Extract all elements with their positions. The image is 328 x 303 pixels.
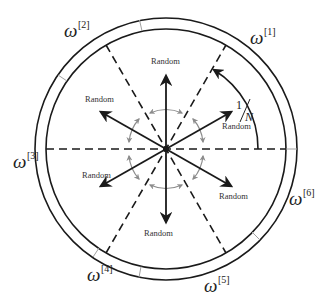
ring-divider bbox=[139, 267, 141, 278]
svg-text:[5]: [5] bbox=[218, 274, 230, 285]
circular-partition-diagram: 1 N Random Random Random Random Random R… bbox=[0, 0, 328, 303]
random-label-upper-left: Random bbox=[85, 94, 114, 104]
random-label-upper-right: Random bbox=[222, 121, 251, 131]
direction-arrow-lower-left bbox=[101, 149, 166, 186]
svg-text:ω: ω bbox=[87, 264, 100, 285]
segment-label-1: ω [1] bbox=[250, 26, 276, 48]
segment-label-2: ω [2] bbox=[64, 19, 90, 41]
ring-divider bbox=[140, 20, 143, 31]
svg-text:ω: ω bbox=[250, 27, 263, 48]
svg-text:[6]: [6] bbox=[303, 187, 315, 198]
direction-arrow-upper-left bbox=[101, 112, 166, 149]
ring-divider bbox=[93, 248, 99, 257]
segment-label-4: ω [4] bbox=[87, 263, 113, 285]
svg-text:ω: ω bbox=[13, 151, 26, 172]
svg-text:[3]: [3] bbox=[27, 150, 39, 161]
random-label-down: Random bbox=[144, 228, 173, 238]
segment-label-5: ω [5] bbox=[204, 274, 230, 296]
svg-text:[4]: [4] bbox=[101, 263, 113, 274]
random-label-lower-left: Random bbox=[82, 170, 111, 180]
svg-text:ω: ω bbox=[204, 275, 217, 296]
random-label-lower-right: Random bbox=[219, 191, 248, 201]
svg-text:ω: ω bbox=[64, 20, 77, 41]
ring-divider bbox=[252, 232, 260, 240]
direction-arrow-lower-right bbox=[166, 149, 231, 186]
svg-text:[2]: [2] bbox=[78, 19, 90, 30]
random-label-up: Random bbox=[151, 56, 180, 66]
center-point bbox=[163, 146, 169, 152]
svg-text:[1]: [1] bbox=[264, 26, 276, 37]
segment-label-6: ω [6] bbox=[289, 187, 315, 209]
svg-text:ω: ω bbox=[289, 188, 302, 209]
ring-divider bbox=[58, 75, 67, 81]
fraction-numerator: 1 bbox=[236, 98, 242, 112]
